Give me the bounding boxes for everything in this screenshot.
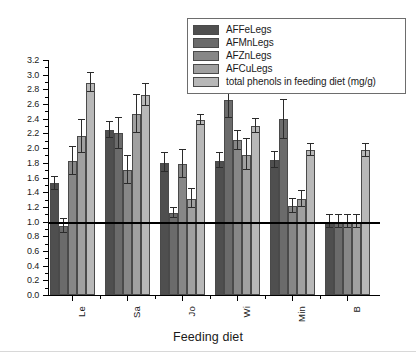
x-axis-tick-label: B (351, 306, 362, 313)
bottom-divider (0, 351, 416, 352)
legend-item[interactable]: AFFeLegs (193, 23, 400, 36)
error-bar-cap-lower (188, 207, 195, 208)
error-bar-cap-upper (243, 138, 250, 139)
legend-item[interactable]: total phenols in feeding diet (mg/g) (193, 75, 400, 88)
y-axis-tick-label: 0.4 (27, 261, 39, 270)
legend-item[interactable]: AFMnLegs (193, 36, 400, 49)
error-bar-cap-lower (60, 232, 67, 233)
bar[interactable] (270, 160, 279, 295)
bar[interactable] (68, 161, 77, 295)
error-bar (301, 191, 302, 207)
error-bar-cap-lower (133, 132, 140, 133)
error-bar (127, 156, 128, 184)
bar[interactable] (224, 100, 233, 295)
legend-label: AFFeLegs (226, 25, 271, 35)
x-axis-tick (237, 296, 238, 301)
y-axis-tick-label: 3.0 (27, 70, 39, 79)
bar[interactable] (297, 199, 306, 295)
error-bar-cap-lower (161, 171, 168, 172)
bar[interactable] (86, 83, 95, 295)
x-axis-minor-tick (265, 296, 266, 299)
error-bar-cap-upper (335, 214, 342, 215)
x-axis-tick (72, 296, 73, 301)
y-axis-tick-label: 2.2 (27, 129, 39, 138)
error-bar (109, 122, 110, 138)
error-bar-cap-upper (252, 118, 259, 119)
error-bar-cap-lower (234, 149, 241, 150)
y-axis-tick-label: 2.6 (27, 100, 39, 109)
bar-group-jo (160, 60, 205, 295)
legend-item[interactable]: AFZnLegs (193, 49, 400, 62)
bar[interactable] (132, 114, 141, 295)
error-bar-cap-upper (124, 155, 131, 156)
error-bar-cap-upper (289, 198, 296, 199)
error-bar (90, 73, 91, 92)
bar[interactable] (334, 222, 343, 295)
y-axis-tick-label: 1.4 (27, 188, 39, 197)
x-axis-minor-tick (320, 296, 321, 299)
error-bar (237, 131, 238, 150)
bar[interactable] (123, 170, 132, 295)
bar[interactable] (141, 95, 150, 295)
bar[interactable] (325, 222, 334, 295)
y-axis-tick-label: 2.4 (27, 114, 39, 123)
legend-swatch-afmnlegs (193, 38, 219, 48)
x-axis-minor-tick (155, 296, 156, 299)
x-axis-tick-label: Min (296, 306, 307, 322)
bar[interactable] (251, 126, 260, 295)
error-bar-cap-lower (362, 156, 369, 157)
y-axis-tick-label: 3.2 (27, 56, 39, 65)
legend-label: total phenols in feeding diet (mg/g) (226, 77, 376, 87)
bar[interactable] (178, 164, 187, 295)
error-bar-cap-lower (142, 105, 149, 106)
error-bar (136, 95, 137, 133)
legend-swatch-afznlegs (193, 51, 219, 61)
legend-label: AFCuLegs (226, 64, 272, 74)
bar[interactable] (288, 206, 297, 295)
bar[interactable] (343, 222, 352, 295)
error-bar-cap-upper (353, 214, 360, 215)
error-bar-cap-upper (179, 149, 186, 150)
y-axis: 0.00.20.40.60.81.01.21.41.61.82.02.22.42… (0, 60, 48, 296)
bar[interactable] (279, 119, 288, 295)
bar[interactable] (187, 199, 196, 295)
error-bar-cap-upper (216, 152, 223, 153)
reference-line-at-1 (48, 222, 380, 224)
bar[interactable] (160, 163, 169, 295)
error-bar-cap-lower (87, 91, 94, 92)
error-bar-cap-upper (344, 214, 351, 215)
error-bar-cap-upper (234, 130, 241, 131)
bar[interactable] (59, 226, 68, 295)
legend-item[interactable]: AFCuLegs (193, 62, 400, 75)
bar[interactable] (352, 222, 361, 295)
error-bar-cap-upper (51, 176, 58, 177)
x-axis-tick (127, 296, 128, 301)
y-axis-tick-label: 1.8 (27, 158, 39, 167)
error-bar-cap-lower (353, 227, 360, 228)
error-bar-cap-upper (170, 207, 177, 208)
error-bar-cap-upper (87, 72, 94, 73)
bar[interactable] (77, 136, 86, 295)
error-bar-cap-lower (326, 227, 333, 228)
bar[interactable] (233, 140, 242, 295)
x-axis-tick-label: Jo (186, 306, 197, 316)
bar[interactable] (196, 120, 205, 295)
bar[interactable] (105, 130, 114, 295)
x-axis-title: Feeding diet (0, 330, 416, 344)
x-axis-minor-tick (210, 296, 211, 299)
error-bar-cap-upper (271, 151, 278, 152)
error-bar-cap-upper (115, 117, 122, 118)
bar[interactable] (242, 155, 251, 295)
y-axis-tick-label: 0.6 (27, 246, 39, 255)
bar[interactable] (215, 161, 224, 295)
error-bar-cap-lower (289, 212, 296, 213)
bars-layer (48, 60, 378, 295)
error-bar-cap-upper (106, 121, 113, 122)
y-axis-tick-label: 2.0 (27, 144, 39, 153)
legend-swatch-afculegs (193, 64, 219, 74)
bar-chart-figure: 0.00.20.40.60.81.01.21.41.61.82.02.22.42… (0, 0, 416, 358)
bar[interactable] (169, 213, 178, 295)
error-bar (283, 100, 284, 138)
bar[interactable] (50, 183, 59, 295)
bar[interactable] (114, 133, 123, 295)
